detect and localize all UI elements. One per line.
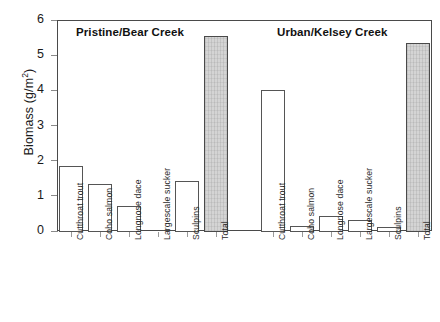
x-tick-1-0 xyxy=(273,232,274,237)
x-axis-label-cutthroat-trout: Cutthroat trout xyxy=(277,183,287,240)
x-axis-label-total: Total xyxy=(422,221,432,240)
x-tick-0-0 xyxy=(71,232,72,237)
x-tick-0-4 xyxy=(187,232,188,237)
x-axis-label-sculpins: Sculpins xyxy=(191,206,201,240)
y-axis-title-suffix: ) xyxy=(22,69,36,73)
x-axis-label-cutthroat-trout: Cutthroat trout xyxy=(75,183,85,240)
x-tick-0-3 xyxy=(158,232,159,237)
y-tick-label-4: 4 xyxy=(22,82,44,96)
x-axis-label-longnose-dace: Longnose dace xyxy=(133,179,143,240)
x-axis-label-largescale-sucker: Largescale sucker xyxy=(162,168,172,240)
x-axis-label-coho-salmon: Coho salmon xyxy=(306,188,316,240)
x-tick-1-3 xyxy=(360,232,361,237)
bar-urban-kelsey-creek-total xyxy=(406,43,430,232)
x-tick-0-2 xyxy=(129,232,130,237)
biomass-bar-chart: Biomass (g/m2) 0123456 Pristine/Bear Cre… xyxy=(0,0,440,322)
x-axis-label-largescale-sucker: Largescale sucker xyxy=(364,168,374,240)
x-tick-1-5 xyxy=(418,232,419,237)
y-tick-label-3: 3 xyxy=(22,118,44,132)
y-tick-label-0: 0 xyxy=(22,223,44,237)
x-tick-0-5 xyxy=(216,232,217,237)
bar-pristine-bear-creek-total xyxy=(204,36,228,232)
y-tick-label-6: 6 xyxy=(22,12,44,26)
x-tick-1-1 xyxy=(302,232,303,237)
x-axis-label-sculpins: Sculpins xyxy=(393,206,403,240)
panel-title-urban: Urban/Kelsey Creek xyxy=(277,26,387,38)
x-tick-0-1 xyxy=(100,232,101,237)
y-axis-title-exponent: 2 xyxy=(20,73,30,78)
panel-title-pristine: Pristine/Bear Creek xyxy=(76,26,184,38)
y-tick-label-2: 2 xyxy=(22,153,44,167)
x-axis-label-longnose-dace: Longnose dace xyxy=(335,179,345,240)
y-tick-label-5: 5 xyxy=(22,47,44,61)
y-tick-label-1: 1 xyxy=(22,188,44,202)
x-axis-label-coho-salmon: Coho salmon xyxy=(104,188,114,240)
x-tick-1-2 xyxy=(331,232,332,237)
x-axis-label-total: Total xyxy=(220,221,230,240)
x-tick-1-4 xyxy=(389,232,390,237)
